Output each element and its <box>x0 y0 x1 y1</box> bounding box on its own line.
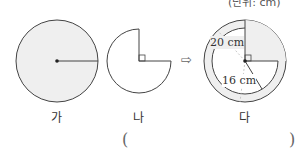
answer-open-paren: ( <box>122 130 128 149</box>
arrow-icon: ⇨ <box>181 52 192 67</box>
label-ga: 가 <box>51 108 62 125</box>
answer-close-paren: ) <box>289 130 295 149</box>
label-na: 나 <box>133 108 144 125</box>
figure-ga <box>16 20 98 102</box>
label-da: 다 <box>239 108 250 125</box>
inner-radius-label: 16 cm <box>222 74 256 87</box>
figure-na <box>107 29 171 93</box>
outer-radius-label: 20 cm <box>210 36 244 49</box>
figure-da <box>204 20 286 102</box>
